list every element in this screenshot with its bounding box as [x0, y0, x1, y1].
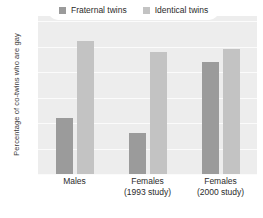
legend-label: Fraternal twins	[71, 5, 127, 15]
gridline	[38, 21, 257, 22]
legend-item[interactable]: Identical twins	[143, 5, 208, 15]
bar	[202, 62, 219, 174]
legend-label: Identical twins	[155, 5, 208, 15]
y-axis-title: Percentage of co-twins who are gay	[12, 15, 21, 175]
legend-item[interactable]: Fraternal twins	[59, 5, 127, 15]
bar	[150, 52, 167, 174]
gridline	[38, 174, 257, 175]
plot-area	[38, 16, 257, 174]
bar-chart: Percentage of co-twins who are gay 01020…	[0, 0, 263, 218]
x-axis-labels: MalesFemales(1993 study)Females(2000 stu…	[38, 176, 257, 216]
x-tick-label-line1: Females	[131, 176, 164, 186]
legend-swatch-icon	[143, 7, 150, 14]
bar	[56, 118, 73, 174]
x-tick-label-line1: Females	[204, 176, 237, 186]
gridline	[38, 47, 257, 48]
x-tick-label-line2: (1993 study)	[111, 187, 184, 198]
x-tick-label: Males	[38, 176, 111, 187]
bar	[129, 133, 146, 174]
x-tick-label-line2: (2000 study)	[184, 187, 257, 198]
bar	[223, 49, 240, 174]
legend-swatch-icon	[59, 7, 66, 14]
bar	[77, 41, 94, 174]
x-tick-label: Females(2000 study)	[184, 176, 257, 198]
x-tick-label-line1: Males	[63, 176, 86, 186]
x-tick-label: Females(1993 study)	[111, 176, 184, 198]
chart-legend: Fraternal twinsIdentical twins	[48, 0, 219, 20]
